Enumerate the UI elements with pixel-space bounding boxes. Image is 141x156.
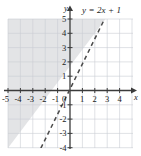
x-tick-label-4: 4 [118, 95, 122, 104]
y-tick-label--3: -3 [60, 129, 67, 138]
x-tick-label--5: -5 [2, 95, 9, 104]
y-tick-label--1: -1 [60, 101, 67, 110]
x-tick-label-3: 3 [105, 95, 109, 104]
y-tick-label--4: -4 [60, 144, 67, 153]
y-tick-label-5: 5 [62, 15, 66, 24]
y-axis-name: y [64, 4, 68, 13]
x-tick-label-2: 2 [93, 95, 97, 104]
equation-label: y = 2x + 1 [82, 6, 121, 15]
y-tick-label-1: 1 [62, 72, 66, 81]
x-tick-label-1: 1 [80, 95, 84, 104]
y-tick-label-2: 2 [62, 58, 66, 67]
x-tick-label--3: -3 [27, 95, 34, 104]
y-tick-label-4: 4 [62, 29, 66, 38]
y-tick-label--2: -2 [60, 115, 67, 124]
x-tick-label--4: -4 [15, 95, 22, 104]
x-axis-name: x [134, 93, 138, 102]
y-tick-label-3: 3 [62, 44, 66, 53]
x-tick-label--2: -2 [40, 95, 47, 104]
graph-figure: -5 -4 -3 -2 -1 1 2 3 4 0 5 4 3 2 1 -1 -2… [0, 0, 141, 156]
x-tick-label--1: -1 [52, 95, 59, 104]
coordinate-plane-svg [0, 0, 141, 156]
